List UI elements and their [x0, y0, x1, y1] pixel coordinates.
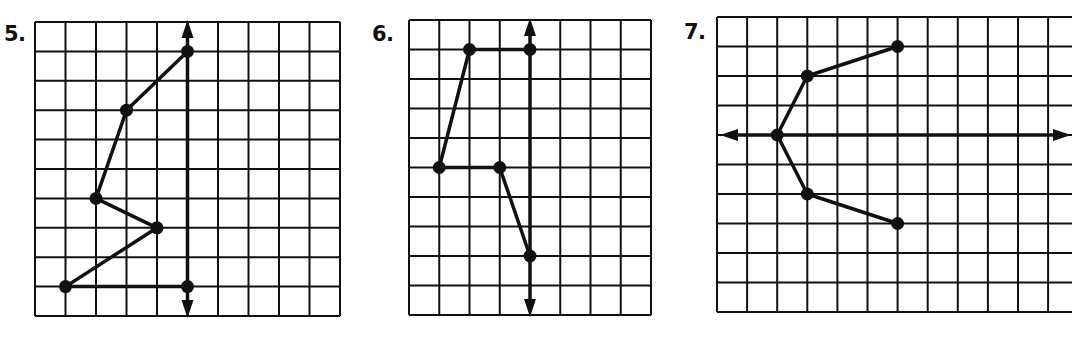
arrow-left-icon [720, 129, 738, 141]
reflection-grid [0, 0, 1072, 340]
vertex-dot [801, 70, 814, 83]
vertex-dot [891, 217, 904, 230]
arrow-right-icon [1053, 129, 1071, 141]
vertex-dot [891, 40, 904, 53]
problem-7: 7. [0, 0, 1072, 340]
vertex-dot [771, 129, 784, 142]
vertex-dot [801, 188, 814, 201]
grid-lines [717, 17, 1072, 312]
